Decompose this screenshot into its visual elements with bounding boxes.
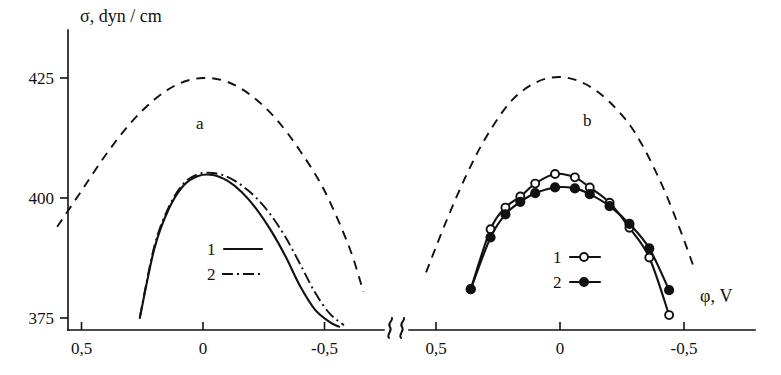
y-tick-label-425: 425 [29, 69, 55, 88]
x-tick-label--0,5: -0,5 [671, 339, 698, 358]
legend-b-item-2-label: 2 [553, 273, 562, 292]
panel-b-marker-2-4 [531, 189, 540, 198]
panel-a-curve-1 [140, 174, 339, 326]
y-axis-title: σ, dyn / cm [80, 6, 162, 26]
legend-b-item-1-label: 1 [553, 248, 562, 267]
panel-b-curve-1 [471, 174, 669, 315]
electrocapillary-figure: 425400375 σ, dyn / cm 0,50-0,5 0,50-0,5 … [0, 0, 781, 375]
legend-a-item-1-label: 1 [207, 240, 216, 259]
panel-b-marker-2-11 [665, 286, 674, 295]
axis-break-icon [388, 318, 404, 338]
x-axis-ticks-panel-a: 0,50-0,5 [71, 322, 338, 358]
panel-b-marker-2-10 [645, 244, 654, 253]
panel-b-marker-2-5 [551, 183, 560, 192]
panel-b-marker-2-9 [625, 220, 634, 229]
panel-b-marker-1-6 [571, 173, 579, 181]
panel-b-marker-1-11 [665, 311, 673, 319]
panel-b-marker-1-4 [531, 180, 539, 188]
x-tick-label--0,5: -0,5 [311, 339, 338, 358]
panel-a-curves [57, 78, 363, 327]
y-tick-label-400: 400 [29, 189, 55, 208]
x-axis-title: φ, V [700, 286, 732, 306]
legend-a-item-2-label: 2 [207, 265, 216, 284]
legend-panel-a: 1 2 [207, 240, 262, 284]
x-tick-label-0,5: 0,5 [71, 339, 92, 358]
y-tick-label-375: 375 [29, 309, 55, 328]
legend-b-item-2-marker-filled-circle-icon [580, 278, 588, 286]
legend-b-item-1-marker-open-circle-icon [580, 253, 588, 261]
x-tick-label-0,5: 0,5 [425, 339, 446, 358]
panel-b-marker-1-5 [551, 170, 559, 178]
panel-b-marker-2-1 [486, 233, 495, 242]
legend-panel-b: 1 2 [553, 248, 600, 292]
figure-container: 425400375 σ, dyn / cm 0,50-0,5 0,50-0,5 … [0, 0, 781, 375]
panel-b-marker-2-3 [516, 198, 525, 207]
panel-b-marker-2-6 [571, 184, 580, 193]
x-axis-ticks-panel-b: 0,50-0,5 [425, 322, 697, 358]
y-axis-ticks: 425400375 [29, 69, 69, 328]
panel-b-marker-2-2 [501, 210, 510, 219]
panel-label-b: b [583, 111, 592, 130]
panel-b-marker-2-7 [585, 190, 594, 199]
x-tick-label-0: 0 [199, 339, 208, 358]
panel-a-curve-reference [57, 78, 363, 292]
x-tick-label-0: 0 [556, 339, 565, 358]
panel-b-marker-2-0 [466, 285, 475, 294]
panel-b-curve-2 [471, 187, 669, 290]
panel-b-marker-2-8 [605, 202, 614, 211]
panel-label-a: a [196, 114, 204, 133]
